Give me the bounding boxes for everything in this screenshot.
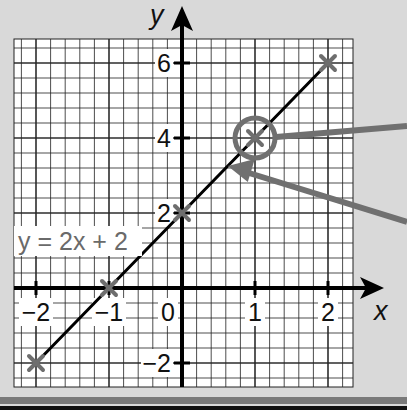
equation-label: y = 2x + 2 (18, 227, 128, 255)
x-axis-label: x (372, 296, 389, 326)
graph-svg: −2−1012−2246 y = 2x + 2 y x (0, 0, 407, 410)
x-tick-label: −1 (95, 298, 124, 326)
bottom-divider-line (0, 406, 407, 410)
y-tick-label: 6 (157, 49, 171, 77)
y-tick-label: 2 (157, 199, 171, 227)
y-tick-label: 4 (157, 124, 171, 152)
y-tick-label: −2 (142, 349, 171, 377)
x-tick-label: 2 (321, 298, 335, 326)
graph-figure: −2−1012−2246 y = 2x + 2 y x (0, 0, 407, 410)
x-tick-label: 1 (248, 298, 262, 326)
x-tick-label: −2 (22, 298, 51, 326)
x-tick-label: 0 (161, 298, 175, 326)
y-axis-label: y (148, 0, 165, 30)
bottom-divider-bar (0, 397, 407, 404)
